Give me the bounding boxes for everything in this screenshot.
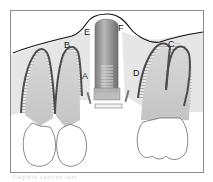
figure-caption: illegible caption text: [12, 174, 202, 180]
right-molar-crown: [137, 118, 188, 159]
label-A: A: [82, 71, 88, 81]
label-B: B: [64, 40, 70, 50]
left-incisor-crown-1: [23, 123, 55, 166]
dental-diagram: A B C D E F: [0, 0, 213, 182]
label-D: D: [133, 68, 140, 78]
label-C: C: [168, 39, 175, 49]
left-incisor-crown-2: [57, 124, 87, 166]
label-E: E: [84, 27, 90, 37]
label-F: F: [118, 23, 124, 33]
